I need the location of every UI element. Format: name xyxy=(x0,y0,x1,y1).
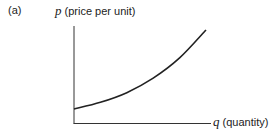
plot-area xyxy=(0,0,276,133)
data-curve xyxy=(74,30,206,109)
